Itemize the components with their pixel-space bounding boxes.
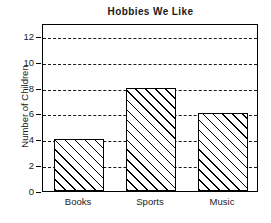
bar-sports bbox=[126, 88, 176, 191]
bar-music bbox=[198, 113, 248, 191]
gridline bbox=[43, 38, 257, 39]
y-axis-tick-mark bbox=[36, 63, 41, 64]
y-axis-tick-label: 6 bbox=[14, 109, 34, 119]
y-axis-tick-mark bbox=[36, 140, 41, 141]
plot-inner bbox=[43, 25, 257, 191]
y-axis-tick-label: 10 bbox=[14, 58, 34, 68]
bar-chart-figure: Hobbies We Like Number of Children 02468… bbox=[0, 0, 271, 223]
bar-books bbox=[54, 139, 104, 191]
y-axis-tick-label: 12 bbox=[14, 32, 34, 42]
y-axis-tick-mark bbox=[36, 37, 41, 38]
y-axis-tick-label: 4 bbox=[14, 135, 34, 145]
y-axis-tick-label: 0 bbox=[14, 187, 34, 197]
y-axis-tick-mark bbox=[36, 166, 41, 167]
gridline bbox=[43, 64, 257, 65]
plot-area bbox=[42, 24, 258, 192]
y-axis-tick-label: 2 bbox=[14, 161, 34, 171]
x-axis-tick-label: Sports bbox=[110, 196, 190, 207]
y-axis-tick-label: 8 bbox=[14, 84, 34, 94]
y-axis-tick-mark bbox=[36, 89, 41, 90]
y-axis-tick-mark bbox=[36, 192, 41, 193]
chart-title: Hobbies We Like bbox=[42, 5, 259, 18]
x-axis-tick-label: Books bbox=[38, 196, 118, 207]
x-axis-tick-label: Music bbox=[182, 196, 262, 207]
y-axis-tick-mark bbox=[36, 114, 41, 115]
